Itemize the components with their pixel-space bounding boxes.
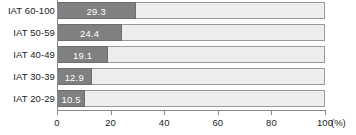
x-axis-tick [111, 111, 112, 115]
x-axis-tick-label: 0 [54, 117, 59, 128]
bar-fill: 12.9 [57, 68, 92, 85]
category-label: IAT 30-39 [0, 68, 55, 85]
bar-value-label: 24.4 [58, 25, 121, 42]
bar-fill: 10.5 [57, 90, 85, 107]
x-axis-tick-label: 80 [266, 117, 277, 128]
bar-fill: 29.3 [57, 2, 136, 19]
bar-fill: 19.1 [57, 46, 108, 63]
category-label: IAT 60-100 [0, 2, 55, 19]
category-label: IAT 50-59 [0, 24, 55, 41]
x-axis-unit-label: (%) [331, 117, 346, 128]
bar-value-label: 19.1 [58, 47, 107, 64]
x-axis-tick [218, 111, 219, 115]
x-axis-tick [271, 111, 272, 115]
category-label: IAT 40-49 [0, 46, 55, 63]
x-axis-tick-label: 60 [212, 117, 223, 128]
x-axis-line [57, 110, 326, 111]
bar-value-label: 10.5 [58, 91, 84, 108]
x-axis-tick [57, 111, 58, 115]
bar-track [57, 68, 325, 85]
x-axis-tick-label: 20 [105, 117, 116, 128]
x-axis-tick [325, 111, 326, 115]
horizontal-bar-chart: IAT 60-100 IAT 50-59 IAT 40-49 IAT 30-39… [0, 0, 356, 135]
y-axis-line [57, 0, 58, 111]
bar-value-label: 12.9 [58, 69, 91, 86]
bar-value-label: 29.3 [58, 3, 135, 20]
bar-track [57, 90, 325, 107]
category-label: IAT 20-29 [0, 90, 55, 107]
x-axis-tick [164, 111, 165, 115]
bar-fill: 24.4 [57, 24, 122, 41]
x-axis-tick-label: 40 [159, 117, 170, 128]
